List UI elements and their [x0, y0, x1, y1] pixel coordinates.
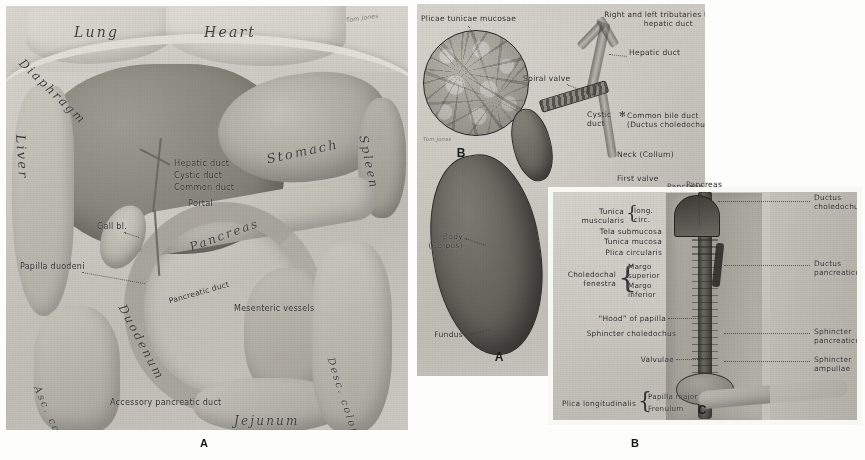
- label-accessory-pancreatic-duct: Accessory pancreatic duct: [110, 398, 174, 408]
- label-cystic-duct: Cystic duct: [174, 170, 222, 180]
- organ-label-liver: Liver: [13, 134, 31, 180]
- panel-a-abdominal-viscera: Lung Heart Diaphragm Liver Stomach Splee…: [6, 6, 408, 430]
- label-hepatic-duct: Hepatic duct: [174, 158, 229, 168]
- organ-label-heart: Heart: [204, 24, 256, 40]
- label-mesenteric-vessels: Mesenteric vessels: [234, 304, 300, 314]
- leader-pancreas-top: [699, 192, 700, 226]
- label-gall-bladder: Gall bl.: [92, 222, 132, 232]
- anatomical-plate: Lung Heart Diaphragm Liver Stomach Splee…: [0, 0, 865, 460]
- panel-c-white-frame: [548, 187, 862, 425]
- panel-c-choledochus: Tunica muscularis long. circ. { Tela sub…: [548, 187, 862, 425]
- panel-a-grain: [6, 6, 408, 430]
- organ-label-jejunum: Jejunum: [234, 414, 300, 428]
- label-portal: Portal: [188, 198, 213, 208]
- label-common-duct: Common duct: [174, 182, 234, 192]
- label-papilla-duodeni: Papilla duodeni: [20, 262, 82, 272]
- caption-a: A: [196, 437, 212, 449]
- caption-b: B: [627, 437, 643, 449]
- organ-label-lung: Lung: [74, 24, 119, 40]
- label-pancreas-top: Pancreas: [686, 180, 722, 189]
